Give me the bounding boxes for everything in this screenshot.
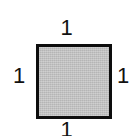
figure-canvas: 1 1 1 1 [0, 0, 133, 136]
side-length-label-left: 1 [13, 65, 25, 87]
side-length-label-bottom: 1 [0, 119, 133, 136]
square-shape [36, 44, 112, 119]
side-length-label-right: 1 [117, 65, 129, 87]
side-length-label-top: 1 [0, 17, 133, 39]
